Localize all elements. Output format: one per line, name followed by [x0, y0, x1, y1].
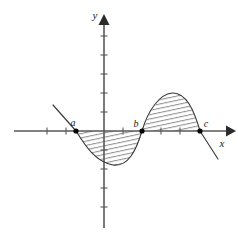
shaded-region-positive	[142, 93, 200, 131]
hatch-fill-above-axis	[142, 93, 200, 131]
point-label-b: b	[134, 118, 139, 129]
y-axis-label: y	[92, 9, 98, 21]
point-label-c: c	[204, 118, 209, 129]
point-a-marker	[73, 128, 78, 133]
coordinate-plane-svg: a b c y x	[0, 0, 238, 239]
shaded-region-negative	[76, 131, 142, 165]
point-c-marker	[197, 128, 202, 133]
graph-figure: a b c y x	[0, 0, 238, 239]
axes-group	[14, 14, 236, 228]
hatch-fill-below-axis	[76, 131, 142, 165]
point-b-marker	[139, 128, 144, 133]
x-axis-arrowhead	[226, 126, 236, 137]
y-axis-arrowhead	[99, 14, 110, 25]
x-axis-label: x	[219, 137, 225, 149]
point-label-a: a	[71, 117, 76, 128]
